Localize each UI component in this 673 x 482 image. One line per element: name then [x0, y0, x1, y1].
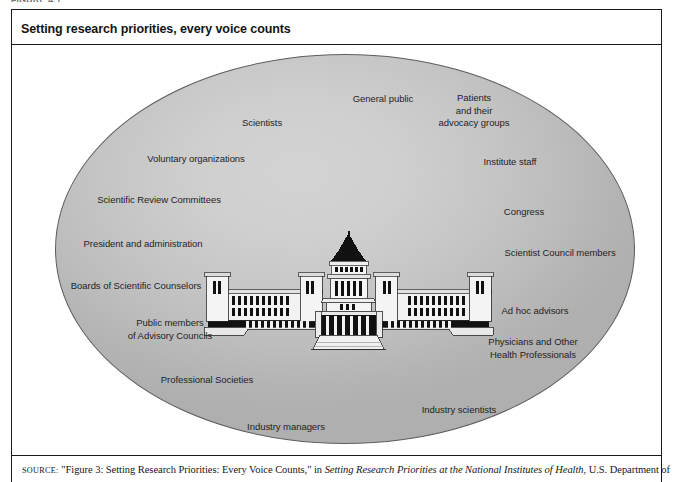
- label-scientist-council-members: Scientist Council members: [504, 247, 615, 260]
- label-ad-hoc-advisors: Ad hoc advisors: [502, 305, 569, 318]
- source-italic-title: Setting Research Priorities at the Natio…: [325, 464, 586, 475]
- figure-number-label: FIGURE 4.1: [11, 0, 61, 2]
- label-industry-scientists: Industry scientists: [422, 404, 497, 417]
- national-diet-building-illustration: [202, 231, 495, 353]
- label-institute-staff: Institute staff: [484, 156, 537, 169]
- label-scientists: Scientists: [242, 117, 282, 130]
- label-professional-societies: Professional Societies: [161, 374, 253, 387]
- label-general-public: General public: [353, 93, 414, 106]
- label-patients-and-advocacy-groups: Patientsand theiradvocacy groups: [438, 92, 509, 130]
- source-note: SOURCE: "Figure 3: Setting Research Prio…: [22, 464, 670, 475]
- source-prefix: SOURCE:: [22, 466, 59, 475]
- label-physicians-and-other-health-professionals: Physicians and OtherHealth Professionals: [488, 336, 577, 361]
- label-congress: Congress: [504, 206, 544, 219]
- label-voluntary-organizations: Voluntary organizations: [147, 153, 245, 166]
- label-scientific-review-committees: Scientific Review Committees: [97, 194, 221, 207]
- frame-edge-left: [11, 456, 12, 482]
- source-trailing: U.S. Department of: [589, 464, 670, 475]
- label-boards-of-scientific-counselors: Boards of Scientific Counselors: [71, 280, 201, 293]
- label-industry-managers: Industry managers: [247, 421, 325, 434]
- figure-page: FIGURE 4.1 Setting research priorities, …: [0, 0, 673, 482]
- diagram-canvas: General public Patientsand theiradvocacy…: [12, 45, 661, 455]
- source-quoted-title: "Figure 3: Setting Research Priorities: …: [61, 464, 322, 475]
- figure-title: Setting research priorities, every voice…: [21, 22, 291, 36]
- label-public-members-of-advisory-councils: Public membersof Advisory Councils: [128, 317, 213, 342]
- label-president-and-administration: President and administration: [83, 238, 202, 251]
